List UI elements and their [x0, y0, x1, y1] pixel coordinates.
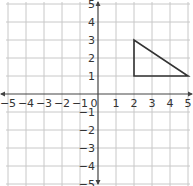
x-axis-left-arrow-icon [0, 92, 5, 97]
x-tick-label: −3 [36, 97, 52, 110]
x-tick-label: 4 [167, 97, 174, 110]
y-tick-label: 4 [88, 16, 95, 29]
x-tick-label: −5 [0, 97, 16, 110]
y-tick-label: 3 [88, 34, 95, 47]
tick-labels: −5−4−3−2−1012345−5−4−3−2−112345 [0, 0, 192, 186]
y-tick-label: 2 [88, 52, 95, 65]
x-tick-label: 3 [149, 97, 156, 110]
x-tick-label: 2 [131, 97, 138, 110]
y-tick-label: −1 [79, 106, 95, 119]
y-tick-label: −4 [79, 160, 95, 173]
y-tick-label: −3 [79, 142, 95, 155]
x-tick-label: −2 [54, 97, 70, 110]
x-tick-label: 1 [113, 97, 120, 110]
axes [0, 1, 193, 185]
x-axis-right-arrow-icon [188, 92, 193, 97]
y-tick-label: −2 [79, 124, 95, 137]
coordinate-plane: −5−4−3−2−1012345−5−4−3−2−112345 [0, 0, 193, 186]
y-tick-label: 5 [88, 0, 95, 11]
y-tick-label: −5 [79, 178, 95, 186]
y-tick-label: 1 [88, 70, 95, 83]
x-tick-label: 5 [185, 97, 192, 110]
x-tick-label: −4 [18, 97, 34, 110]
